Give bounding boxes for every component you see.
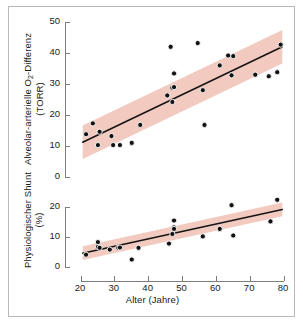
upper-y-tick-label: 30 [38,77,60,88]
upper-y-tick-label: 50 [38,15,60,26]
upper-y-tick-label: 40 [38,46,60,57]
data-point [83,252,88,257]
data-point [97,245,102,250]
upper-y-tick-label: 20 [38,108,60,119]
data-point [217,226,222,231]
upper-y-tick-label: 10 [38,139,60,150]
data-point [129,257,134,262]
x-tick-label: 70 [235,282,263,293]
upper-y-tick-label: 0 [38,170,60,181]
figure-root: Alveolar-arterielle O2-Differenz (TORR) … [0,0,303,329]
lower-y-tick-label: 0 [38,260,60,271]
data-point [200,234,205,239]
data-point [117,245,122,250]
data-point [107,247,112,252]
x-axis-title: Alter (Jahre) [9,295,296,306]
x-tick-label: 80 [269,282,297,293]
data-point [268,219,273,224]
lower-y-axis-title-main: Physiologischer Shunt [22,172,33,268]
data-point [171,218,176,223]
data-point [166,241,171,246]
x-tick-label: 20 [66,282,94,293]
data-point [136,245,141,250]
x-tick-label: 40 [134,282,162,293]
x-tick-label: 30 [100,282,128,293]
lower-y-axis-title-unit: (%) [33,212,44,227]
x-tick-label: 60 [201,282,229,293]
lower-y-tick-label: 20 [38,200,60,211]
data-point [275,197,280,202]
data-point [170,231,175,236]
lower-y-tick-label: 10 [38,230,60,241]
data-point [171,226,176,231]
data-point [229,203,234,208]
data-point [231,233,236,238]
x-tick-label: 50 [168,282,196,293]
lower-y-axis-title: Physiologischer Shunt (%) [23,165,45,275]
